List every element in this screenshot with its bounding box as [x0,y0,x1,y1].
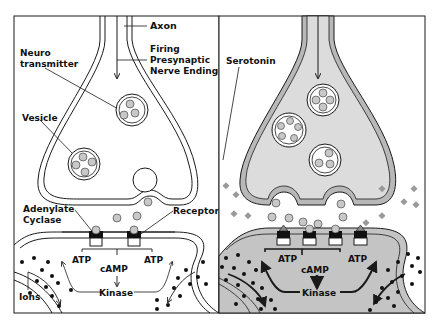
label-receptor: Receptor [173,206,219,216]
label-vesicle: Vesicle [22,113,58,123]
vesicle-r1 [307,84,339,116]
label-ions: Ions [19,292,40,302]
label-kinase-r: Kinase [302,288,336,298]
synapse-diagram: Axon Firing Presynaptic Nerve Ending Neu… [0,0,440,331]
label-kinase: Kinase [99,288,133,298]
label-atp-left-r: ATP [278,254,297,264]
label-firing: Firing [150,44,180,54]
label-atp-right: ATP [144,255,163,265]
label-axon: Axon [150,20,177,31]
label-neuro: Neuro [20,48,51,58]
label-cyclase: Cyclase [23,215,61,225]
label-serotonin: Serotonin [226,56,276,66]
label-transmitter: transmitter [20,59,79,69]
vesicle-r2 [272,113,306,147]
label-adenylate: Adenylate [23,204,74,214]
label-nerve-ending: Nerve Ending [150,66,218,76]
label-camp-r: cAMP [301,265,329,275]
left-panel: Axon Firing Presynaptic Nerve Ending Neu… [14,16,219,313]
right-panel: Serotonin ATP ATP cAMP Kinase [219,16,425,313]
vesicle-1 [116,94,148,126]
label-atp-left: ATP [72,255,91,265]
label-atp-right-r: ATP [348,254,367,264]
vesicle-r3 [309,144,341,176]
vesicle-2 [68,148,100,180]
label-presynaptic: Presynaptic [150,55,210,65]
vesicle-3-partial [133,168,157,192]
label-camp: cAMP [100,264,128,274]
